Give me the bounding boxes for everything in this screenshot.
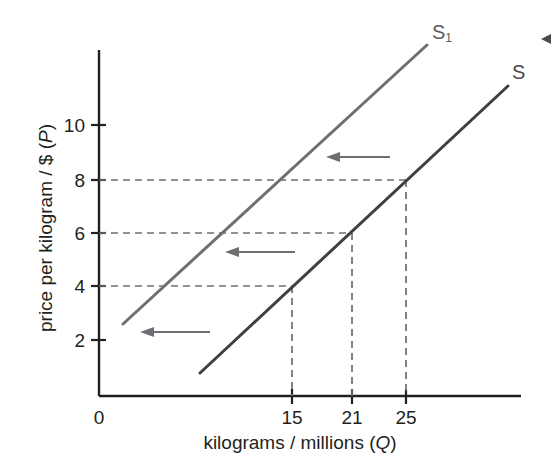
supply-curve-s xyxy=(200,86,508,373)
curve-label-s1: S1 xyxy=(432,22,452,42)
x-tick-label-15: 15 xyxy=(281,408,302,427)
y-tick-label-2: 2 xyxy=(74,331,85,350)
curve-label-s1-sub: 1 xyxy=(445,31,452,45)
y-tick-label-4: 4 xyxy=(74,277,85,296)
y-axis-title-text: price per kilogram / $ xyxy=(35,155,56,332)
y-axis-title: price per kilogram / $ (P) xyxy=(35,124,57,332)
x-axis-title-text: kilograms / millions xyxy=(203,432,363,453)
shift-arrow-middle xyxy=(225,247,295,257)
x-axis-title: kilograms / millions (Q) xyxy=(203,432,396,454)
curve-label-s: S xyxy=(512,62,525,82)
x-tick-label-21: 21 xyxy=(341,408,362,427)
y-tick-label-10: 10 xyxy=(64,116,85,135)
curve-label-s1-base: S xyxy=(432,21,445,43)
x-tick-label-0: 0 xyxy=(94,408,105,427)
curve-label-s-base: S xyxy=(512,61,525,83)
shift-arrow-bottom xyxy=(140,327,210,337)
supply-curve-chart: 10 8 6 4 2 0 15 21 25 price per kilogram… xyxy=(0,0,553,467)
y-axis-title-symbol: P xyxy=(35,130,56,143)
supply-curve-s1 xyxy=(123,45,427,324)
guide-lines xyxy=(99,180,406,396)
y-tick-label-8: 8 xyxy=(74,171,85,190)
y-tick-label-6: 6 xyxy=(74,224,85,243)
x-tick-label-25: 25 xyxy=(395,408,416,427)
shift-arrow-top xyxy=(326,152,390,162)
page-edge-marker-icon xyxy=(541,34,551,44)
x-axis-title-symbol: Q xyxy=(375,432,390,453)
